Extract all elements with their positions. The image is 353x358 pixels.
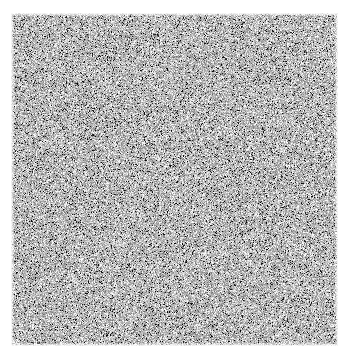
random-grayscale-noise-field	[11, 13, 338, 346]
image-canvas	[0, 0, 353, 358]
